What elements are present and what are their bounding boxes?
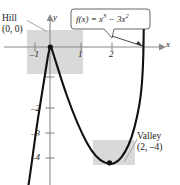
graph-canvas xyxy=(0,0,180,185)
hill-annotation: Hill (0, 0) xyxy=(2,13,23,35)
valley-point-marker xyxy=(107,160,112,165)
formula-label: f(x) = x3 − 3x2 xyxy=(76,12,129,24)
formula-pointer-arrowhead xyxy=(136,41,143,47)
formula-operator: − 3 xyxy=(106,14,121,24)
y-tick-label-neg3: –3 xyxy=(31,128,40,138)
hill-point-marker xyxy=(48,44,53,49)
y-axis-label: y xyxy=(53,12,57,22)
formula-term2-exponent: 2 xyxy=(125,12,128,19)
formula-lhs: f(x) = xyxy=(76,14,99,24)
x-axis-label: x xyxy=(166,39,170,49)
valley-annotation: Valley (2, –4) xyxy=(137,131,162,153)
x-tick-label-2: 2 xyxy=(109,49,114,59)
x-axis-arrowhead xyxy=(159,44,166,51)
cubic-function-figure: f(x) = x3 − 3x2 Hill (0, 0) Valley (2, –… xyxy=(0,0,180,185)
hill-annotation-point: (0, 0) xyxy=(2,24,23,35)
valley-annotation-point: (2, –4) xyxy=(137,142,162,153)
x-tick-label-1: 1 xyxy=(78,49,83,59)
x-tick-label-neg1: –1 xyxy=(30,49,39,59)
y-tick-label-neg2: –2 xyxy=(31,103,40,113)
hill-leader-line xyxy=(27,21,47,32)
hill-annotation-label: Hill xyxy=(2,13,23,24)
y-tick-label-neg4: –4 xyxy=(31,152,40,162)
valley-annotation-label: Valley xyxy=(137,131,162,142)
